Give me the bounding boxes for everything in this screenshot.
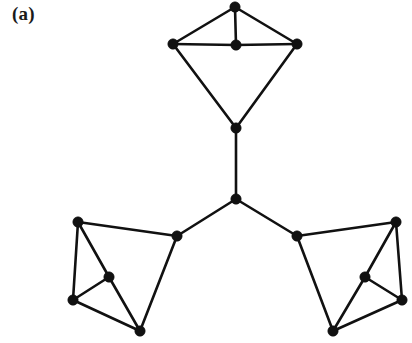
graph-edge xyxy=(235,7,236,45)
graph-node xyxy=(73,217,83,227)
graph-edge xyxy=(236,44,297,45)
graph-node xyxy=(360,272,370,282)
graph-edge xyxy=(140,236,177,331)
graph-node xyxy=(292,39,302,49)
graph-edge xyxy=(236,44,297,128)
graph-node xyxy=(172,231,182,241)
graph-node xyxy=(231,123,241,133)
graph-edge xyxy=(365,277,402,300)
graph-node xyxy=(231,40,241,50)
graph-node xyxy=(230,2,240,12)
node-layer xyxy=(68,2,407,336)
graph-edge xyxy=(236,199,297,236)
graph-diagram xyxy=(0,0,412,343)
graph-edge xyxy=(365,222,396,277)
graph-node xyxy=(391,217,401,227)
graph-edge xyxy=(173,44,236,128)
graph-edge xyxy=(173,7,235,44)
figure-container: (a) xyxy=(0,0,412,343)
graph-node xyxy=(328,326,338,336)
graph-edge xyxy=(235,7,297,44)
graph-edge xyxy=(297,236,333,331)
graph-node xyxy=(231,194,241,204)
graph-edge xyxy=(396,222,402,300)
graph-edge xyxy=(173,44,236,45)
graph-node xyxy=(168,39,178,49)
graph-node xyxy=(397,295,407,305)
graph-node xyxy=(68,295,78,305)
graph-edge xyxy=(73,222,78,300)
graph-edge xyxy=(177,199,236,236)
edge-layer xyxy=(73,7,402,331)
graph-edge xyxy=(73,277,109,300)
graph-edge xyxy=(78,222,177,236)
graph-node xyxy=(135,326,145,336)
graph-node xyxy=(104,272,114,282)
graph-node xyxy=(292,231,302,241)
graph-edge xyxy=(78,222,109,277)
graph-edge xyxy=(297,222,396,236)
